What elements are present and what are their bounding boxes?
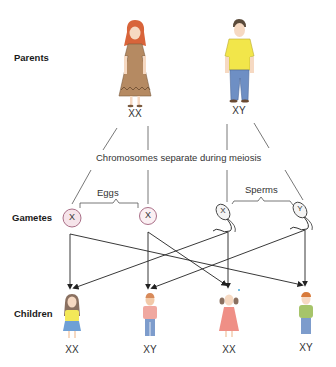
gametes-row-label: Gametes	[12, 212, 52, 223]
child-4-figure	[299, 292, 313, 334]
mother-figure	[119, 20, 151, 107]
egg-1-chromosome: X	[69, 212, 75, 222]
eggs-label: Eggs	[97, 187, 119, 198]
children-row-label: Children	[14, 308, 53, 319]
child-4-genotype: XY	[299, 342, 312, 353]
sperms-label: Sperms	[245, 184, 278, 195]
child-2-figure	[143, 293, 157, 336]
sperm-1-chromosome: X	[220, 206, 225, 215]
egg-2-chromosome: X	[145, 210, 151, 220]
child-1-genotype: XX	[65, 344, 78, 355]
eggs-brace	[80, 199, 138, 208]
sperms-brace	[232, 197, 293, 205]
father-genotype: XY	[232, 105, 245, 116]
child-1-figure	[63, 294, 81, 338]
child-2-genotype: XY	[143, 344, 156, 355]
mother-genotype: XX	[128, 108, 141, 119]
meiosis-label: Chromosomes separate during meiosis	[96, 152, 261, 163]
sperm-2-chromosome: Y	[297, 204, 302, 213]
child-3-figure	[219, 289, 240, 337]
parents-row-label: Parents	[14, 52, 49, 63]
father-figure	[225, 19, 254, 103]
child-3-genotype: XX	[222, 344, 235, 355]
